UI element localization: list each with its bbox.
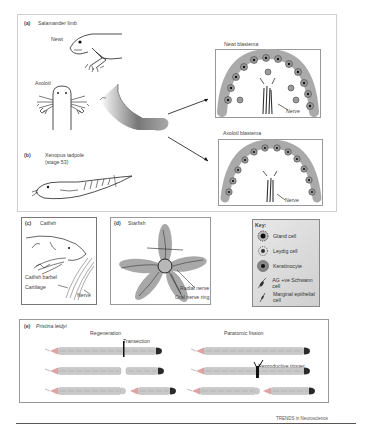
arrow-to-axolotl-blastema: [168, 135, 213, 165]
journal-credit: TRENDS in Neuroscience: [276, 417, 328, 422]
key-item-marginal-epithelial-cell: Marginal epithelial cell: [257, 291, 319, 303]
key-label: Leydig cell: [273, 248, 298, 254]
regen-worm-1: [45, 341, 162, 357]
radial-nerve-label: Radial nerve: [180, 286, 209, 291]
fission-worm-1: [191, 348, 310, 355]
panel-b-title-line1: Xenopus tadpole: [45, 153, 84, 158]
catfish-nerve-label: Nerve: [77, 293, 91, 298]
panel-b-letter: (b): [24, 153, 31, 158]
leydig-cell-icon: [257, 245, 269, 257]
panel-e-box: (e) Pristina leidyi Regeneration Transec…: [19, 319, 329, 403]
key-item-gland-cell: Gland cell: [257, 230, 296, 242]
panel-d-box: (d) Starfish Radial nerve Oral nerve rin…: [110, 217, 211, 305]
key-label: Keratinocyte: [273, 263, 302, 269]
newt-blastema-drawing: [216, 50, 320, 117]
newt-drawing: [66, 30, 126, 75]
key-item-keratinocyte: Keratinocyte: [257, 260, 302, 272]
newt-blastema-nerve-label: Nerve: [286, 109, 300, 114]
key-label: Marginal epithelial cell: [273, 291, 319, 303]
key-label: AG +ve Schwann cell: [272, 277, 319, 289]
footer-rule: [16, 423, 356, 424]
key-title: Key:: [255, 223, 266, 228]
catfish-barbel-label: Catfish barbel: [25, 275, 57, 280]
fission-worm-3a: [187, 388, 260, 395]
panel-b-title-line2: (stage 53): [45, 160, 68, 165]
panel-a-letter: (a): [24, 21, 30, 26]
marginal-epithelial-cell-icon: [257, 291, 269, 303]
schwann-cell-icon: [257, 277, 268, 289]
key-item-schwann-cell: AG +ve Schwann cell: [257, 277, 319, 289]
regen-worm-2a: [45, 368, 121, 375]
axolotl-drawing: [33, 84, 99, 132]
gland-cell-icon: [257, 230, 269, 242]
panel-a-title: Salamander limb: [38, 21, 77, 26]
key-legend: Key: Gland cell Leydig cell Keratinocyte…: [252, 219, 320, 307]
keratinocyte-icon: [257, 260, 269, 272]
worm-diagram: [20, 320, 328, 402]
panel-c-box: (c) Catfish Catfish barbel Cartilage Ner…: [21, 217, 97, 305]
key-label: Gland cell: [273, 233, 296, 239]
newt-blastema-box: Nerve: [215, 49, 321, 118]
regenerating-limb: [98, 82, 173, 132]
oral-nerve-ring-label: Oral nerve ring: [175, 295, 209, 300]
newt-label: Newt: [51, 37, 63, 42]
fission-worm-2: [191, 360, 310, 378]
arrow-to-newt-blastema: [168, 96, 213, 116]
axolotl-blastema-drawing: [219, 140, 322, 205]
axolotl-blastema-nerve-label: Nerve: [285, 198, 299, 203]
axolotl-blastema-box: Nerve: [218, 139, 323, 206]
regen-worm-2b: [126, 368, 164, 375]
axolotl-blastema-title: Axolotl blastema: [223, 131, 261, 136]
fission-worm-3b: [263, 388, 315, 395]
key-item-leydig-cell: Leydig cell: [257, 245, 298, 257]
tadpole-drawing: [30, 174, 135, 202]
cartilage-label: Cartilage: [25, 285, 46, 290]
regen-worm-3b: [130, 388, 176, 395]
regen-worm-3a: [45, 388, 126, 395]
newt-blastema-title: Newt blastema: [224, 42, 258, 47]
